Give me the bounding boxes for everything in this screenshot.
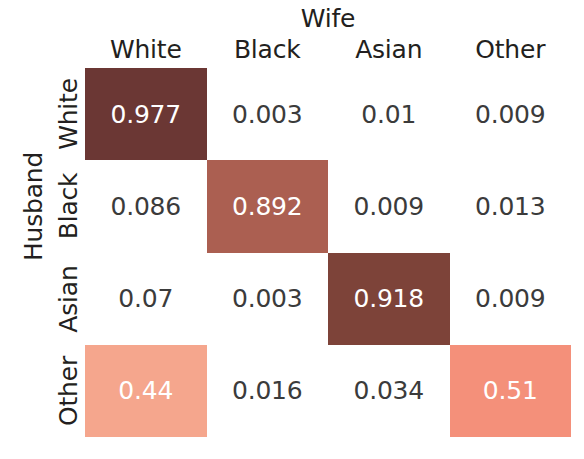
column-header-row: White Black Asian Other xyxy=(85,33,571,66)
heatmap-cell: 0.086 xyxy=(85,160,207,252)
cell-value: 0.44 xyxy=(118,378,173,403)
heatmap-cell: 0.003 xyxy=(207,253,329,345)
heatmap-cell: 0.013 xyxy=(450,160,572,252)
row-header-other: Other xyxy=(50,345,85,437)
cell-value: 0.07 xyxy=(118,286,173,311)
row-header-black: Black xyxy=(50,160,85,252)
row-header-white: White xyxy=(50,68,85,160)
cell-value: 0.086 xyxy=(110,194,181,219)
y-axis-title: Husband xyxy=(21,117,46,297)
row-header-asian-label: Asian xyxy=(55,265,80,332)
cell-value: 0.892 xyxy=(232,194,303,219)
row-header-other-label: Other xyxy=(55,356,80,426)
heatmap-figure: Wife White Black Asian Other Husband Whi… xyxy=(0,0,584,459)
heatmap-cell: 0.51 xyxy=(450,345,572,437)
heatmap-cell: 0.01 xyxy=(328,68,450,160)
column-header-asian: Asian xyxy=(328,33,450,66)
heatmap-cell: 0.016 xyxy=(207,345,329,437)
heatmap-cell: 0.07 xyxy=(85,253,207,345)
row-header-black-label: Black xyxy=(55,173,80,240)
heatmap-cell: 0.009 xyxy=(450,253,572,345)
heatmap-cell: 0.034 xyxy=(328,345,450,437)
x-axis-title: Wife xyxy=(85,6,571,31)
cell-value: 0.013 xyxy=(475,194,546,219)
cell-value: 0.009 xyxy=(475,102,546,127)
heatmap-cell: 0.44 xyxy=(85,345,207,437)
row-header-white-label: White xyxy=(55,78,80,150)
heatmap-cell: 0.003 xyxy=(207,68,329,160)
cell-value: 0.003 xyxy=(232,286,303,311)
heatmap-grid: 0.977 0.003 0.01 0.009 0.086 0.892 0.009 xyxy=(85,68,571,437)
column-header-white: White xyxy=(85,33,207,66)
heatmap-cell: 0.009 xyxy=(328,160,450,252)
heatmap-cell: 0.977 xyxy=(85,68,207,160)
cell-value: 0.977 xyxy=(110,102,181,127)
cell-value: 0.51 xyxy=(483,378,538,403)
cell-value: 0.016 xyxy=(232,378,303,403)
cell-value: 0.918 xyxy=(353,286,424,311)
row-header-asian: Asian xyxy=(50,253,85,345)
cell-value: 0.009 xyxy=(475,286,546,311)
cell-value: 0.01 xyxy=(361,102,416,127)
cell-value: 0.003 xyxy=(232,102,303,127)
heatmap-cell: 0.918 xyxy=(328,253,450,345)
heatmap-cell: 0.009 xyxy=(450,68,572,160)
column-header-black: Black xyxy=(207,33,329,66)
cell-value: 0.034 xyxy=(353,378,424,403)
heatmap-cell: 0.892 xyxy=(207,160,329,252)
cell-value: 0.009 xyxy=(353,194,424,219)
row-header-column: White Black Asian Other xyxy=(50,68,85,437)
column-header-other: Other xyxy=(450,33,572,66)
